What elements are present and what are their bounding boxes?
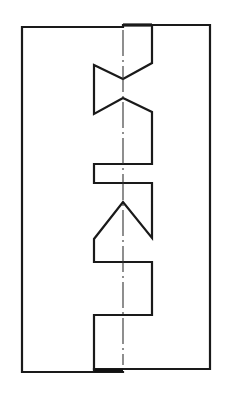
diagram-canvas [0, 0, 233, 400]
left-plate-outline [22, 27, 123, 372]
interlocking-plates-drawing [0, 0, 233, 400]
